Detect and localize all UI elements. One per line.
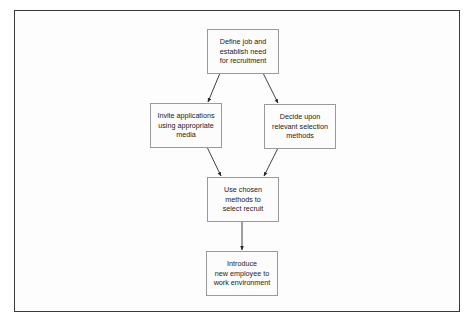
node-introduce-employee: Introduce new employee to work environme… bbox=[206, 251, 278, 296]
node-invite-applications-label: Invite applications using appropriate me… bbox=[157, 111, 214, 139]
node-define-job: Define job and establish need for recrui… bbox=[207, 29, 279, 74]
node-use-methods-label: Use chosen methods to select recruit bbox=[223, 185, 264, 213]
node-define-job-label: Define job and establish need for recrui… bbox=[220, 37, 266, 65]
node-introduce-employee-label: Introduce new employee to work environme… bbox=[214, 259, 271, 287]
node-use-methods: Use chosen methods to select recruit bbox=[207, 177, 279, 222]
node-decide-selection: Decide upon relevant selection methods bbox=[264, 104, 336, 149]
node-invite-applications: Invite applications using appropriate me… bbox=[150, 103, 222, 148]
node-decide-selection-label: Decide upon relevant selection methods bbox=[272, 112, 328, 140]
